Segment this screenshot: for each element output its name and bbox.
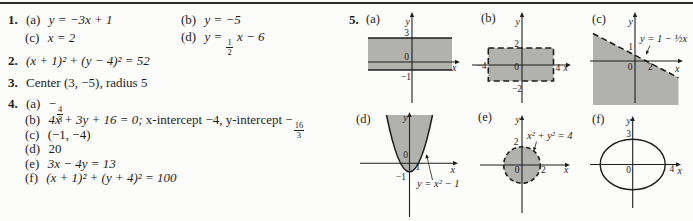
tick-0: 0 bbox=[515, 165, 520, 175]
equation: y = bbox=[204, 29, 222, 44]
x-axis-label: x bbox=[563, 62, 569, 73]
fraction: 12 bbox=[226, 38, 232, 57]
tick-1: 1 bbox=[628, 42, 633, 52]
graph-5b: y 2 −4 0 4 −2 x bbox=[470, 8, 582, 108]
item-number: 4. bbox=[8, 96, 18, 111]
equation: y = −3x + 1 bbox=[49, 12, 113, 27]
part-label: (c) bbox=[25, 30, 39, 45]
parabola-equation-label: y = x² − 1 bbox=[416, 178, 459, 189]
tick-x2: 2 bbox=[541, 165, 546, 175]
top-rule bbox=[0, 2, 693, 4]
answer-2: 2. (x + 1)² + (y − 4)² = 52 bbox=[8, 53, 150, 68]
x-axis-label: x bbox=[677, 165, 683, 176]
part-label: (d) bbox=[181, 29, 196, 44]
x-axis-label: x bbox=[451, 62, 457, 73]
tick-minus1: −1 bbox=[401, 72, 411, 82]
callout-arrow bbox=[535, 142, 537, 149]
shaded-band-region bbox=[368, 38, 452, 70]
graph-5f: y 3 0 4 x bbox=[588, 110, 693, 221]
y-axis-arrow-icon bbox=[410, 12, 414, 17]
graph-5c: y y = 1 − ½x 1 0 2 x bbox=[585, 8, 693, 108]
tick-1: 1 bbox=[416, 162, 421, 172]
graph-5a: y 3 0 −1 x bbox=[360, 8, 465, 108]
tick-0: 0 bbox=[626, 165, 631, 175]
tick-4: 4 bbox=[556, 63, 561, 73]
y-axis-label: y bbox=[405, 16, 411, 27]
answer-text: x-intercept −4, y-intercept − bbox=[146, 112, 293, 127]
callout-arrowhead-icon bbox=[425, 154, 429, 158]
tick-0: 0 bbox=[403, 150, 408, 160]
tick-4: 4 bbox=[670, 164, 675, 174]
y-axis-label: y bbox=[628, 16, 634, 27]
answer-4d: (d) 20 bbox=[25, 141, 61, 156]
item-number: 3. bbox=[8, 75, 18, 90]
part-label: (a) bbox=[26, 12, 40, 27]
part-label: (b) bbox=[25, 112, 40, 127]
equation: 3x − 4y = 13 bbox=[48, 156, 116, 171]
answer-text: Center (3, −5), radius 5 bbox=[26, 75, 147, 90]
tick-2: 2 bbox=[648, 62, 653, 72]
tick-minus2: −2 bbox=[512, 84, 522, 94]
answer-value: 20 bbox=[48, 141, 61, 156]
part-label: (f) bbox=[25, 170, 38, 185]
callout-arrowhead-icon bbox=[646, 51, 649, 56]
answer-1b: (b) y = −5 bbox=[181, 12, 241, 27]
item-number-5: 5. bbox=[349, 12, 359, 27]
graph-5d: y 0 1 −1 x y = x² − 1 bbox=[355, 110, 465, 221]
minus-sign: − bbox=[49, 96, 56, 111]
y-axis-label: y bbox=[515, 114, 521, 125]
line-equation-label: y = 1 − ½x bbox=[639, 33, 687, 44]
fraction-denominator: 2 bbox=[227, 48, 231, 57]
answer-4c: (c) (−1, −4) bbox=[25, 127, 91, 142]
tick-minus1: −1 bbox=[396, 172, 406, 182]
tick-3: 3 bbox=[626, 129, 631, 139]
y-axis-label: y bbox=[626, 115, 632, 126]
part-label: (d) bbox=[25, 141, 40, 156]
answer-4e: (e) 3x − 4y = 13 bbox=[25, 156, 116, 171]
y-axis-arrow-icon bbox=[631, 116, 635, 121]
y-axis-label: y bbox=[515, 16, 521, 27]
part-label: (b) bbox=[181, 12, 196, 27]
fraction-denominator: 3 bbox=[297, 131, 301, 140]
part-label: (c) bbox=[25, 127, 39, 142]
x-axis-label: x bbox=[450, 164, 456, 175]
part-label: (e) bbox=[25, 156, 39, 171]
shaded-halfplane-region bbox=[593, 34, 679, 106]
equation: x = 2 bbox=[48, 30, 76, 45]
equation: x − 6 bbox=[237, 29, 265, 44]
answer-4f: (f) (x + 1)² + (y + 4)² = 100 bbox=[25, 170, 177, 185]
answer-1d: (d) y = 12 x − 6 bbox=[181, 29, 265, 57]
tick-0: 0 bbox=[514, 62, 519, 72]
tick-0: 0 bbox=[404, 52, 409, 62]
y-axis-arrow-icon bbox=[520, 12, 524, 17]
equation: 4x + 3y + 16 = 0; bbox=[48, 112, 142, 127]
y-axis-label: y bbox=[402, 112, 408, 123]
textbook-answer-key-page: 1. (a) y = −3x + 1 (b) y = −5 (c) x = 2 … bbox=[0, 0, 693, 221]
tick-3: 3 bbox=[404, 28, 409, 38]
y-axis-arrow-icon bbox=[520, 115, 524, 120]
circle-equation-label: x² + y² = 4 bbox=[526, 130, 573, 141]
answer-3: 3. Center (3, −5), radius 5 bbox=[8, 75, 147, 90]
x-axis-label: x bbox=[674, 63, 680, 74]
y-axis-arrow-icon bbox=[633, 12, 637, 17]
tick-2: 2 bbox=[514, 39, 519, 49]
equation: y = −5 bbox=[204, 12, 240, 27]
equation: (x + 1)² + (y − 4)² = 52 bbox=[26, 53, 150, 68]
item-number: 1. bbox=[8, 12, 18, 27]
fraction: 163 bbox=[294, 121, 305, 140]
y-axis-arrow-icon bbox=[407, 112, 411, 117]
tick-minus4: −4 bbox=[476, 61, 486, 71]
tick-0: 0 bbox=[628, 62, 633, 72]
answer-value: (−1, −4) bbox=[48, 127, 91, 142]
x-axis-label: x bbox=[563, 164, 569, 175]
graph-5e: y x² + y² = 4 2 0 2 x bbox=[478, 110, 583, 221]
item-number: 2. bbox=[8, 53, 18, 68]
callout-arrow bbox=[648, 46, 651, 52]
tick-y2: 2 bbox=[514, 137, 519, 147]
equation: (x + 1)² + (y + 4)² = 100 bbox=[46, 170, 176, 185]
part-label: (a) bbox=[26, 96, 40, 111]
answer-1a: 1. (a) y = −3x + 1 bbox=[8, 12, 113, 27]
answer-1c: (c) x = 2 bbox=[25, 30, 75, 45]
